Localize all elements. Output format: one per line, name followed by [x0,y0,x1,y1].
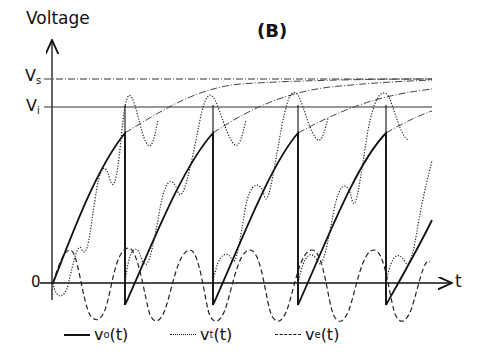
figure-title: (B) [257,20,287,41]
x-axis-label: t [455,271,462,291]
plot-area [0,0,483,362]
y-axis-label: Voltage [26,8,90,28]
origin-label: 0 [31,273,41,291]
dashed-line-swatch [275,334,301,335]
series-ve [53,248,430,321]
legend-item-ve: ve(t) [275,325,339,344]
dotted-line-swatch [170,334,196,335]
solid-line-swatch [64,334,90,336]
legend-item-vo: vo(t) [64,325,128,344]
vi-label: Vi [26,96,40,116]
series-vt [53,93,432,297]
reset-lines [125,105,386,305]
vs-label: Vs [25,66,41,86]
legend-item-vt: vt(t) [170,325,232,344]
figure-canvas: Voltage (B) Vs Vi 0 t vo(t) vt(t) ve(t) [0,0,483,362]
series-vo [53,133,432,305]
